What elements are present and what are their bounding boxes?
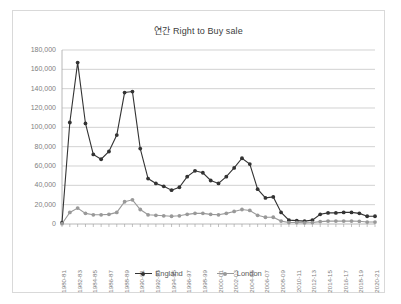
data-point-london [350, 219, 354, 223]
data-point-london [357, 219, 361, 223]
data-point-england [232, 166, 236, 170]
data-point-london [123, 200, 127, 204]
data-point-england [248, 162, 252, 166]
data-point-england [240, 156, 244, 160]
y-axis-tick-label: 40,000 [35, 181, 57, 188]
data-point-england [334, 211, 338, 215]
data-point-london [170, 214, 174, 218]
legend-label-london: London [237, 269, 262, 278]
data-point-london [60, 222, 64, 226]
y-axis-tick-label: 100,000 [31, 123, 56, 130]
data-point-england [68, 121, 72, 125]
legend-entry-england[interactable]: England [135, 269, 183, 278]
data-point-england [209, 179, 213, 183]
legend-marker-england [135, 270, 152, 277]
series-line-england [62, 63, 375, 223]
data-point-england [185, 175, 189, 179]
data-point-london [240, 208, 244, 212]
data-point-london [232, 210, 236, 214]
data-point-london [91, 213, 95, 217]
data-point-london [303, 221, 307, 225]
data-point-london [248, 209, 252, 213]
y-axis-tick-label: 80,000 [35, 143, 57, 150]
data-point-england [131, 90, 135, 94]
data-point-england [193, 169, 197, 173]
data-point-england [84, 122, 88, 126]
data-point-england [256, 187, 260, 191]
y-axis-tick-label: 160,000 [31, 65, 56, 72]
data-point-england [264, 196, 268, 200]
data-point-london [287, 221, 291, 225]
chart-legend: England London [13, 269, 384, 278]
data-point-london [271, 215, 275, 219]
data-point-london [76, 206, 80, 210]
data-point-england [318, 212, 322, 216]
data-point-london [209, 212, 213, 216]
data-point-england [177, 185, 181, 189]
data-point-england [170, 188, 174, 192]
legend-dot-england [141, 272, 145, 276]
data-point-london [342, 219, 346, 223]
data-point-england [357, 211, 361, 215]
y-axis-tick-label: 60,000 [35, 162, 57, 169]
data-point-london [326, 219, 330, 223]
data-point-london [256, 213, 260, 217]
y-axis-tick-label: 180,000 [31, 46, 56, 53]
data-point-england [365, 214, 369, 218]
y-axis-tick-label: 140,000 [31, 85, 56, 92]
legend-dot-london [223, 272, 227, 276]
legend-marker-london [217, 270, 234, 277]
data-point-london [311, 221, 315, 225]
data-point-london [131, 198, 135, 202]
data-point-england [201, 171, 205, 175]
data-point-england [91, 153, 95, 157]
data-point-london [68, 211, 72, 215]
axis-lines [62, 50, 375, 224]
data-point-london [154, 213, 158, 217]
data-point-london [193, 211, 197, 215]
data-point-england [146, 177, 150, 181]
gridlines-group [62, 50, 375, 205]
data-point-london [264, 215, 268, 219]
data-point-london [334, 219, 338, 223]
data-point-england [154, 182, 158, 186]
data-point-england [115, 133, 119, 137]
data-point-england [138, 147, 142, 151]
data-point-london [365, 220, 369, 224]
data-point-london [224, 211, 228, 215]
data-point-london [201, 211, 205, 215]
y-axis-tick-label: 120,000 [31, 104, 56, 111]
data-point-england [99, 157, 103, 161]
legend-entry-london[interactable]: London [217, 269, 262, 278]
y-axis-tick-labels: 180,000160,000140,000120,000100,00080,00… [31, 46, 56, 227]
data-point-london [138, 208, 142, 212]
data-point-england [224, 175, 228, 179]
data-point-london [177, 214, 181, 218]
data-point-london [217, 213, 221, 217]
data-point-england [162, 184, 166, 188]
data-point-london [318, 220, 322, 224]
data-point-london [84, 211, 88, 215]
y-axis-tick-label: 20,000 [35, 201, 57, 208]
data-point-england [271, 195, 275, 199]
y-axis-tick-label: 0 [52, 220, 56, 227]
data-point-london [146, 213, 150, 217]
data-point-london [185, 212, 189, 216]
x-axis-tick-labels: 1980-811982-831984-851986-871988-891990-… [60, 224, 380, 293]
data-point-england [107, 150, 111, 154]
data-point-england [342, 211, 346, 215]
data-point-london [162, 214, 166, 218]
data-point-london [295, 221, 299, 225]
data-point-england [76, 61, 80, 65]
data-point-london [107, 212, 111, 216]
data-point-england [217, 182, 221, 186]
data-point-london [279, 219, 283, 223]
data-point-london [99, 213, 103, 217]
data-series-group [60, 61, 377, 226]
data-point-london [373, 220, 377, 224]
chart-frame: 연간 Right to Buy sale 180,000160,000140,0… [12, 10, 385, 293]
data-point-england [373, 214, 377, 218]
data-point-england [279, 211, 283, 215]
data-point-england [123, 91, 127, 95]
chart-plot-area: 180,000160,000140,000120,000100,00080,00… [13, 11, 386, 294]
